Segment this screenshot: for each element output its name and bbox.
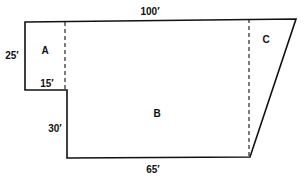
dimension-step: 15′ xyxy=(40,79,54,89)
region-label-a: A xyxy=(41,46,48,56)
dimension-left: 25′ xyxy=(5,51,19,61)
outline-shape xyxy=(25,19,296,158)
dimension-bottom: 65′ xyxy=(146,165,160,175)
dimension-inner-left: 30′ xyxy=(48,124,62,134)
region-label-c: C xyxy=(262,35,269,45)
dimension-top: 100′ xyxy=(140,7,159,17)
region-label-b: B xyxy=(153,109,160,119)
